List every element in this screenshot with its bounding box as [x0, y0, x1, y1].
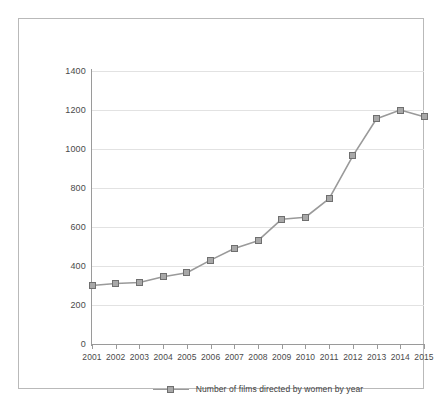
x-axis-tick-label: 2004: [153, 352, 172, 362]
x-axis-tick-mark: [282, 345, 283, 349]
x-axis-tick-mark: [424, 345, 425, 349]
data-point-marker: [255, 237, 262, 244]
data-point-marker: [136, 279, 143, 286]
y-axis-tick-label: 1000: [65, 144, 86, 154]
line-series-path: [92, 71, 424, 344]
x-axis-tick-label: 2003: [130, 352, 149, 362]
x-axis-tick-label: 2012: [343, 352, 362, 362]
x-axis-tick-mark: [92, 345, 93, 349]
x-axis-tick-label: 2010: [296, 352, 315, 362]
data-point-marker: [349, 152, 356, 159]
y-axis-tick-label: 200: [70, 300, 86, 310]
chart-figure: 0200400600800100012001400 20012002200320…: [0, 0, 446, 409]
y-axis-tick-label: 1400: [65, 66, 86, 76]
legend-marker-icon: [153, 385, 189, 394]
y-axis-tick-label: 0: [81, 339, 86, 349]
x-axis-tick-label: 2005: [177, 352, 196, 362]
data-point-marker: [112, 280, 119, 287]
chart-legend: Number of films directed by women by yea…: [92, 381, 424, 397]
data-point-marker: [373, 115, 380, 122]
x-axis-tick-mark: [305, 345, 306, 349]
x-axis-tick-label: 2007: [225, 352, 244, 362]
y-axis-tick-label: 600: [70, 222, 86, 232]
data-point-marker: [278, 216, 285, 223]
x-axis-tick-mark: [116, 345, 117, 349]
x-axis-tick-label: 2014: [391, 352, 410, 362]
plot-area: [92, 71, 424, 344]
x-axis-tick-mark: [258, 345, 259, 349]
y-axis-tick-label: 400: [70, 261, 86, 271]
data-point-marker: [89, 282, 96, 289]
x-axis-tick-label: 2015: [414, 352, 433, 362]
x-axis-tick-marks: [92, 345, 424, 350]
chart-frame: 0200400600800100012001400 20012002200320…: [18, 18, 424, 389]
x-axis-tick-mark: [353, 345, 354, 349]
y-axis-tick-label: 1200: [65, 105, 86, 115]
data-point-marker: [326, 195, 333, 202]
data-point-marker: [397, 107, 404, 114]
x-axis-tick-label: 2002: [106, 352, 125, 362]
y-axis-tick-labels: 0200400600800100012001400: [45, 71, 86, 344]
data-point-marker: [160, 273, 167, 280]
data-point-marker: [302, 214, 309, 221]
x-axis-tick-mark: [377, 345, 378, 349]
x-axis-tick-label: 2001: [82, 352, 101, 362]
y-axis-tick-label: 800: [70, 183, 86, 193]
x-axis-tick-mark: [187, 345, 188, 349]
x-axis-tick-mark: [329, 345, 330, 349]
x-axis-tick-label: 2006: [201, 352, 220, 362]
x-axis-tick-label: 2009: [272, 352, 291, 362]
data-point-marker: [421, 113, 428, 120]
x-axis-tick-mark: [163, 345, 164, 349]
data-point-marker: [231, 245, 238, 252]
x-axis-tick-mark: [139, 345, 140, 349]
x-axis-tick-mark: [211, 345, 212, 349]
x-axis-tick-labels: 2001200220032004200520062007200820092010…: [92, 352, 424, 366]
x-axis-tick-label: 2008: [248, 352, 267, 362]
x-axis-tick-mark: [400, 345, 401, 349]
x-axis-tick-label: 2011: [320, 352, 339, 362]
x-axis-tick-mark: [234, 345, 235, 349]
legend-label: Number of films directed by women by yea…: [196, 384, 364, 394]
x-axis-tick-label: 2013: [367, 352, 386, 362]
data-point-marker: [183, 269, 190, 276]
data-point-marker: [207, 257, 214, 264]
